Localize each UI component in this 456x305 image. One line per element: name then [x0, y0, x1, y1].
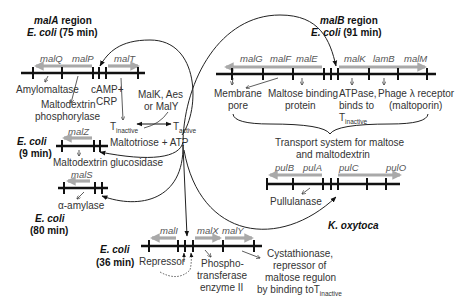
membrane-label: Membrane — [214, 88, 262, 99]
inducer-link — [144, 112, 168, 128]
maltose-binding-label: Maltose binding — [268, 88, 338, 99]
repressor-label: Repressor — [139, 256, 186, 267]
curve-to-mali — [183, 145, 187, 236]
mala-title: malA region — [34, 15, 92, 26]
gene-malg: malG — [240, 53, 263, 64]
gene-pula: pulA — [302, 162, 322, 173]
pts-line2: transferase — [197, 270, 247, 281]
malz-organism: E. coli — [17, 136, 47, 147]
gene-malf: malF — [270, 53, 292, 64]
phosphorylase-label: phosphorylase — [35, 111, 100, 122]
mala-region: malA region E. coli (75 min) malQ malP m… — [16, 15, 145, 122]
t-inactive: Tinactive — [110, 121, 139, 134]
maly-product-line1: Cystathionase, — [267, 248, 333, 259]
inducers-line1: MalK, Aes — [138, 89, 183, 100]
pts-line3: enzyme II — [200, 282, 243, 293]
gene-malk: malK — [344, 53, 366, 64]
crp-label: CRP — [96, 96, 117, 107]
malz-product: Maltodextrin glucosidase — [53, 157, 163, 168]
binds-to-label: binds to — [339, 100, 374, 111]
pul-region: pulB pulA pulC pulO Pullulanase K. oxyto… — [266, 162, 407, 231]
maltoporin-label: (maltoporin) — [389, 100, 442, 111]
inducers-line2: or MalY — [144, 101, 179, 112]
gene-pulo: pulO — [385, 162, 407, 173]
malb-organism: E. coli (91 min) — [311, 27, 382, 38]
gene-pulc: pulC — [338, 162, 359, 173]
gene-mali: malI — [160, 225, 178, 236]
gene-mals: malS — [71, 169, 93, 180]
maly-product-line2: repressor of — [273, 260, 327, 271]
gene-malp: malP — [72, 53, 94, 64]
pore-label: pore — [228, 100, 248, 111]
malx-pointer — [205, 250, 211, 257]
mali-region: malI malX malY E. coli (36 min) Represso… — [96, 225, 342, 297]
gene-pulb: pulB — [274, 162, 295, 173]
atpase-label: ATPase, — [339, 88, 377, 99]
gene-lamb: lamB — [373, 53, 395, 64]
maly-product-line4: by binding toTinactive — [257, 284, 342, 297]
transport-line2: and maltodextrin — [296, 149, 370, 160]
mala-organism: E. coli (75 min) — [27, 27, 98, 38]
malb-region: malB region E. coli (91 min) malG malF m… — [214, 15, 455, 160]
gene-male: malE — [296, 53, 318, 64]
gene-malz: malZ — [68, 126, 90, 137]
mals-organism: E. coli — [35, 213, 65, 224]
pullulanase-label: Pullulanase — [270, 196, 322, 207]
amylomaltase-label: Amylomaltase — [16, 84, 79, 95]
gene-malx: malX — [197, 225, 219, 236]
malb-title: malB region — [320, 15, 378, 26]
amylomaltase-pointer — [45, 76, 48, 82]
mals-pointer — [77, 192, 84, 199]
gene-maly: malY — [222, 225, 244, 236]
mali-position: (36 min) — [96, 257, 134, 268]
camp-label: cAMP+ — [91, 84, 124, 95]
maltodextrin-label: Maltodextrin — [41, 99, 95, 110]
mals-product: α-amylase — [58, 200, 105, 211]
gene-malq: malQ — [40, 53, 63, 64]
malz-position: (9 min) — [19, 148, 52, 159]
pula-pointer — [302, 188, 310, 194]
t-inactive-malk: Tinactive — [339, 112, 368, 125]
curve-to-mals — [102, 145, 183, 202]
maly-product-line3: maltose regulon — [265, 272, 336, 283]
pts-line1: Phospho- — [201, 258, 244, 269]
mals-region: malS α-amylase E. coli (80 min) — [30, 169, 108, 236]
transport-line1: Transport system for maltose — [275, 137, 405, 148]
pul-organism: K. oxytoca — [328, 220, 379, 231]
mals-position: (80 min) — [30, 225, 68, 236]
effector-label: Maltotriose + ATP — [110, 137, 189, 148]
phage-label: Phage λ receptor — [378, 88, 455, 99]
mali-organism: E. coli — [100, 244, 130, 255]
maltose-regulon-diagram: malA region E. coli (75 min) malQ malP m… — [0, 0, 456, 305]
maly-pointer — [242, 251, 260, 258]
protein-label: protein — [285, 100, 316, 111]
gene-malm: malM — [404, 53, 427, 64]
gene-malt: malT — [114, 53, 136, 64]
transport-brace — [233, 114, 428, 134]
